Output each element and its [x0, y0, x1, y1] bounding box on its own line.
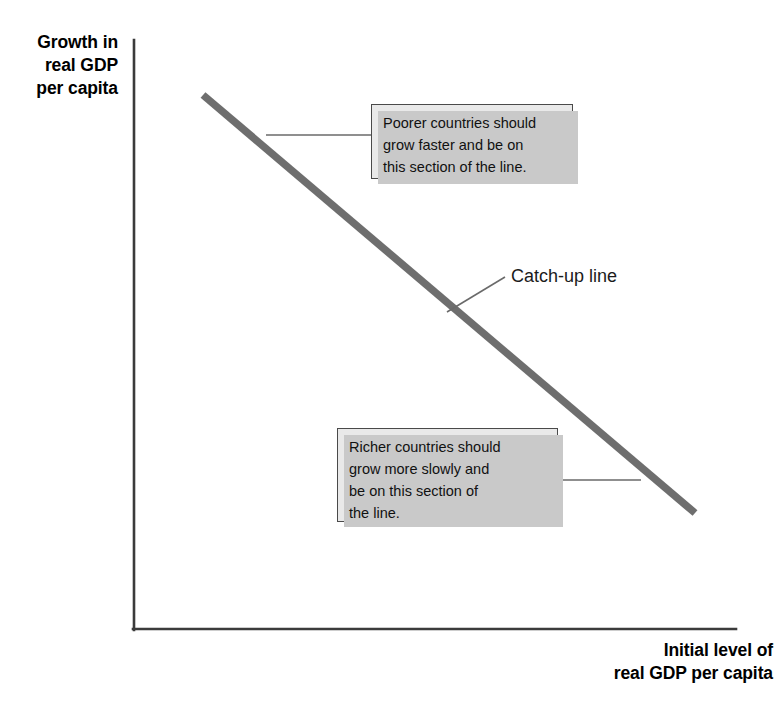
y-axis-title: Growth in real GDP per capita [0, 31, 118, 100]
x-axis-title: Initial level of real GDP per capita [545, 639, 773, 685]
poorer-countries-callout: Poorer countries should grow faster and … [371, 104, 573, 179]
catch-up-label-leader-line [447, 277, 505, 312]
richer-countries-callout: Richer countries should grow more slowly… [337, 428, 558, 522]
catch-up-line-label: Catch-up line [511, 266, 617, 287]
catch-up-line-figure: Growth in real GDP per capita Initial le… [0, 0, 780, 701]
